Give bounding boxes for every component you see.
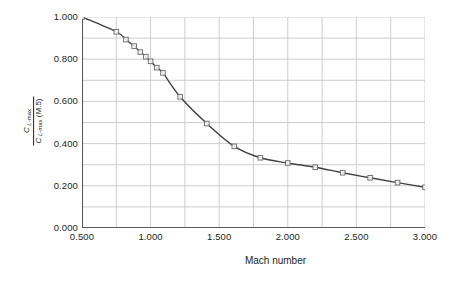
x-axis-tick-label: 1.500: [207, 232, 231, 242]
y-axis-tick-label: 0.200: [54, 181, 78, 191]
x-axis-tick-label: 0.500: [70, 232, 94, 242]
data-point-marker: [144, 54, 149, 59]
data-point-marker: [368, 175, 373, 180]
y-axis-fraction-numerator: C L-max: [23, 96, 33, 145]
data-point-marker: [132, 44, 137, 49]
x-axis-title-text: Mach number: [245, 255, 306, 266]
data-point-marker: [340, 170, 345, 175]
y-axis-title-rotated: C L-max C L-max (M.5): [23, 96, 45, 145]
data-point-marker: [154, 65, 159, 70]
y-axis-tick-label: 1.000: [54, 12, 78, 22]
x-axis-tick-label: 3.000: [413, 232, 437, 242]
y-axis-tick-label: 0.600: [54, 96, 78, 106]
figure-container: 0.0000.2000.4000.6000.8001.000 0.5001.00…: [0, 0, 451, 283]
data-point-marker: [161, 71, 166, 76]
data-point-marker: [423, 185, 425, 190]
x-axis-title: Mach number: [0, 255, 451, 266]
data-point-marker: [82, 17, 84, 19]
data-point-marker: [258, 155, 263, 160]
data-point-marker: [114, 29, 119, 34]
data-point-marker: [286, 161, 291, 166]
plot-area: [82, 17, 425, 228]
x-axis-tick-labels: 0.5001.0001.5002.0002.5003.000: [0, 232, 451, 246]
data-point-marker: [148, 59, 153, 64]
x-axis-tick-label: 2.500: [344, 232, 368, 242]
data-point-marker: [124, 37, 129, 42]
data-point-marker: [232, 144, 237, 149]
data-point-marker: [313, 165, 318, 170]
y-axis-title: C L-max C L-max (M.5): [14, 46, 54, 196]
data-point-marker: [178, 94, 183, 99]
y-axis-tick-label: 0.400: [54, 139, 78, 149]
data-point-marker: [138, 50, 143, 55]
x-axis-tick-label: 1.000: [138, 232, 162, 242]
x-axis-tick-label: 2.000: [276, 232, 300, 242]
chart-svg: [82, 17, 425, 228]
y-axis-tick-label: 0.800: [54, 54, 78, 64]
y-axis-fraction: C L-max C L-max (M.5): [23, 96, 44, 145]
y-axis-fraction-denominator: C L-max (M.5): [34, 96, 44, 145]
data-point-marker: [395, 180, 400, 185]
data-point-marker: [205, 121, 210, 126]
